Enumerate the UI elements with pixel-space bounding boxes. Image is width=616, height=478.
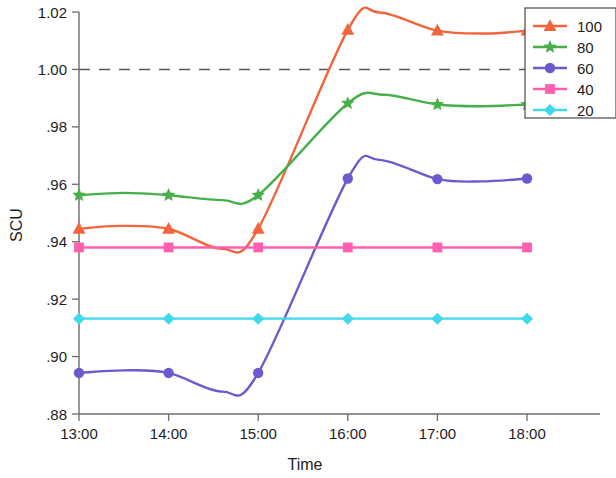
chart-legend: 10080604020 xyxy=(525,8,616,119)
data-point-marker-circle xyxy=(74,368,84,378)
x-tick-label-layer: 13:0014:0015:0016:0017:0018:00 xyxy=(60,425,546,442)
data-point-marker-star xyxy=(431,97,445,110)
y-axis-title: SCU xyxy=(8,208,25,242)
y-tick-label: 1.02 xyxy=(38,4,67,21)
data-point-marker-diamond xyxy=(521,313,533,325)
y-tick-label: .92 xyxy=(46,291,67,308)
legend-box xyxy=(525,8,616,118)
legend-label-80: 80 xyxy=(577,39,594,56)
y-tick-label: .98 xyxy=(46,118,67,135)
data-point-marker-triangle xyxy=(341,23,354,35)
y-tick-label: .90 xyxy=(46,348,67,365)
data-point-marker-diamond xyxy=(73,313,85,325)
data-point-marker-square xyxy=(433,243,443,253)
y-tick-label: .96 xyxy=(46,176,67,193)
legend-label-100: 100 xyxy=(577,18,602,35)
series-40 xyxy=(74,243,532,253)
legend-label-60: 60 xyxy=(577,60,594,77)
data-point-marker-triangle xyxy=(252,222,265,234)
data-point-marker-square xyxy=(343,243,353,253)
data-point-marker-square xyxy=(74,243,84,253)
data-point-marker-circle xyxy=(522,173,532,183)
data-point-marker-square xyxy=(253,243,263,253)
series-80 xyxy=(72,93,534,204)
data-point-marker-diamond xyxy=(342,313,354,325)
y-tick-label: .94 xyxy=(46,233,67,250)
x-tick-label: 14:00 xyxy=(150,425,188,442)
data-point-marker-square xyxy=(522,243,532,253)
data-point-marker-star xyxy=(162,188,176,201)
data-point-marker-square xyxy=(164,243,174,253)
data-point-marker-circle xyxy=(253,368,263,378)
x-tick-label: 13:00 xyxy=(60,425,98,442)
scu-vs-time-line-chart: 1.021.00.98.96.94.92.90.88 13:0014:0015:… xyxy=(0,0,616,478)
series-line-100 xyxy=(79,8,527,253)
legend-label-20: 20 xyxy=(577,102,594,119)
x-tick-label: 17:00 xyxy=(419,425,457,442)
data-series-layer xyxy=(72,8,534,396)
legend-label-40: 40 xyxy=(577,81,594,98)
series-20 xyxy=(73,313,533,325)
data-point-marker-diamond xyxy=(252,313,264,325)
data-point-marker-circle xyxy=(545,63,555,73)
x-tick-label: 15:00 xyxy=(239,425,277,442)
series-line-60 xyxy=(79,156,527,396)
x-tick-label: 18:00 xyxy=(508,425,546,442)
data-point-marker-circle xyxy=(343,173,353,183)
x-tick-label: 16:00 xyxy=(329,425,367,442)
axis-layer xyxy=(72,12,600,421)
data-point-marker-square xyxy=(545,84,555,94)
data-point-marker-circle xyxy=(163,368,173,378)
series-60 xyxy=(74,156,532,396)
data-point-marker-diamond xyxy=(163,313,175,325)
y-tick-label-layer: 1.021.00.98.96.94.92.90.88 xyxy=(38,4,67,423)
series-line-80 xyxy=(79,93,527,204)
y-tick-label: .88 xyxy=(46,406,67,423)
data-point-marker-circle xyxy=(432,174,442,184)
data-point-marker-diamond xyxy=(431,313,443,325)
series-100 xyxy=(73,8,534,253)
y-tick-label: 1.00 xyxy=(38,61,67,78)
chart-canvas: 1.021.00.98.96.94.92.90.88 13:0014:0015:… xyxy=(0,0,616,478)
x-axis-title: Time xyxy=(288,456,323,473)
